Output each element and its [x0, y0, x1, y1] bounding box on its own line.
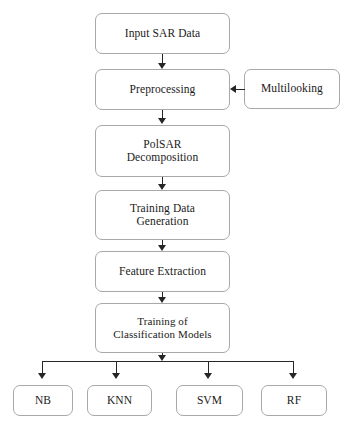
connector-bus-to-nb-arrowhead: [38, 373, 46, 379]
node-training-data-generation[interactable]: Training Data Generation: [95, 190, 230, 240]
connector-classifier-bus: [42, 361, 294, 362]
node-polsar-decomposition-label: PolSAR Decomposition: [127, 138, 199, 165]
node-input-sar-data-label: Input SAR Data: [125, 27, 201, 41]
node-feature-extraction[interactable]: Feature Extraction: [95, 251, 230, 292]
node-input-sar-data[interactable]: Input SAR Data: [95, 13, 230, 54]
node-classifier-nb[interactable]: NB: [13, 385, 73, 416]
connector-bus-to-knn-arrowhead: [112, 373, 120, 379]
node-multilooking-label: Multilooking: [261, 82, 323, 96]
connector-multilooking-to-preprocessing-arrowhead: [230, 85, 236, 93]
connector-preprocessing-to-polsar-arrowhead: [158, 118, 166, 124]
node-preprocessing-label: Preprocessing: [130, 83, 196, 97]
node-classifier-knn-label: KNN: [107, 394, 132, 408]
connector-multilooking-to-preprocessing-line: [236, 89, 245, 90]
node-polsar-decomposition[interactable]: PolSAR Decomposition: [95, 125, 230, 177]
node-training-of-classification-models[interactable]: Training of Classification Models: [95, 303, 230, 353]
node-training-data-generation-label: Training Data Generation: [130, 202, 195, 229]
node-classifier-rf[interactable]: RF: [261, 385, 327, 416]
connector-bus-to-svm-arrowhead: [204, 373, 212, 379]
node-multilooking[interactable]: Multilooking: [244, 69, 340, 109]
node-preprocessing[interactable]: Preprocessing: [95, 69, 230, 110]
node-classifier-svm[interactable]: SVM: [176, 385, 243, 416]
node-classifier-knn[interactable]: KNN: [87, 385, 152, 416]
node-classifier-nb-label: NB: [35, 394, 51, 408]
connector-bus-to-rf-arrowhead: [289, 373, 297, 379]
node-training-of-classification-models-label: Training of Classification Models: [113, 315, 211, 342]
node-classifier-svm-label: SVM: [197, 394, 222, 408]
flowchart-canvas: Input SAR Data Preprocessing Multilookin…: [0, 0, 346, 425]
node-classifier-rf-label: RF: [287, 394, 301, 408]
node-feature-extraction-label: Feature Extraction: [119, 265, 206, 279]
